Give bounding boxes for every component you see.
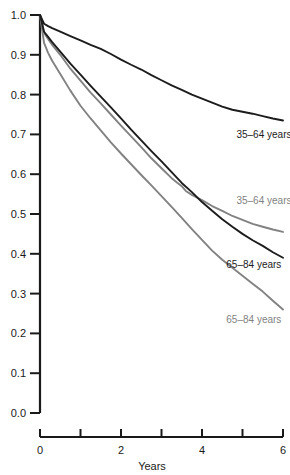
series-annotation-label: 65–84 years xyxy=(226,314,281,325)
y-tick-label: 0.4 xyxy=(0,249,26,260)
x-axis-ticks xyxy=(40,429,283,437)
y-tick-label: 1.0 xyxy=(0,10,26,21)
series-annotation-label: 35–64 years xyxy=(236,129,290,140)
series-annotation-label: 35–64 years xyxy=(236,195,290,206)
chart-canvas xyxy=(0,0,290,475)
y-tick-label: 0.2 xyxy=(0,328,26,339)
y-tick-label: 0.3 xyxy=(0,289,26,300)
y-tick-label: 0.1 xyxy=(0,368,26,379)
y-tick-label: 0.6 xyxy=(0,169,26,180)
x-tick-label: 0 xyxy=(30,445,50,456)
y-tick-label: 0.7 xyxy=(0,129,26,140)
x-tick-label: 2 xyxy=(111,445,131,456)
x-tick-label: 6 xyxy=(273,445,290,456)
y-axis-ticks xyxy=(30,15,40,413)
x-axis-title: Years xyxy=(112,461,192,472)
series-annotation-label: 65–84 years xyxy=(226,259,281,270)
y-tick-label: 0.0 xyxy=(0,408,26,419)
y-tick-label: 0.9 xyxy=(0,50,26,61)
series-line xyxy=(40,15,283,120)
survival-curve-figure: 0.00.10.20.30.40.50.60.70.80.91.0 0246 3… xyxy=(0,0,290,475)
x-axis xyxy=(40,429,283,437)
y-tick-label: 0.8 xyxy=(0,90,26,101)
y-axis xyxy=(30,15,40,413)
x-tick-label: 4 xyxy=(192,445,212,456)
y-tick-label: 0.5 xyxy=(0,209,26,220)
